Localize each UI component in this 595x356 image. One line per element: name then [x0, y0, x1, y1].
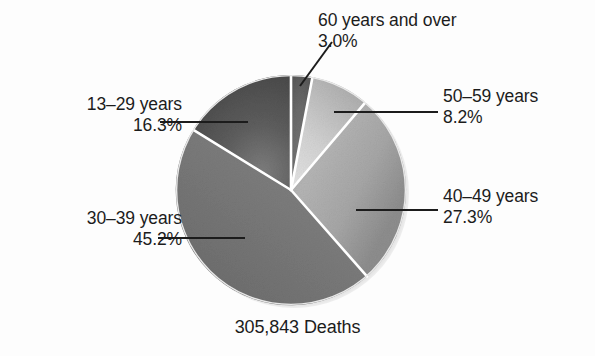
slice-label-30-39-name: 30–39 years — [22, 208, 182, 229]
slice-label-30-39: 30–39 years 45.2% — [22, 208, 182, 250]
slice-label-13-29-name: 13–29 years — [22, 94, 182, 115]
slice-label-13-29: 13–29 years 16.3% — [22, 94, 182, 136]
chart-caption: 305,843 Deaths — [0, 317, 595, 338]
pie-chart-graphic — [0, 0, 595, 356]
slice-label-50-59: 50–59 years 8.2% — [443, 86, 538, 128]
slice-label-60-plus-name: 60 years and over — [318, 10, 456, 31]
slice-label-60-plus: 60 years and over 3.0% — [318, 10, 456, 52]
slice-label-13-29-value: 16.3% — [22, 115, 182, 136]
slice-label-40-49: 40–49 years 27.3% — [443, 186, 538, 228]
slice-label-50-59-value: 8.2% — [443, 107, 538, 128]
slice-label-40-49-name: 40–49 years — [443, 186, 538, 207]
pie-chart-figure: 60 years and over 3.0% 50–59 years 8.2% … — [0, 0, 595, 356]
slice-label-50-59-name: 50–59 years — [443, 86, 538, 107]
pie-svg — [0, 0, 595, 356]
slice-label-40-49-value: 27.3% — [443, 207, 538, 228]
slice-label-30-39-value: 45.2% — [22, 229, 182, 250]
slice-label-60-plus-value: 3.0% — [318, 31, 456, 52]
